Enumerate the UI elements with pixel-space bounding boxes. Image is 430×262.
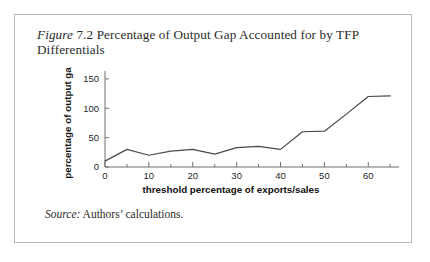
x-tick-label: 50 [319,170,330,181]
x-tick-label: 30 [231,170,242,181]
source-text: Authors’ calculations. [83,208,184,220]
chart-plot-area: 0102030405060050100150 threshold percent… [59,67,404,197]
y-tick-label: 150 [83,73,99,84]
x-tick-label: 20 [187,170,198,181]
source-label: Source: [45,208,80,220]
x-tick-label: 60 [363,170,374,181]
y-tick-label: 0 [94,161,99,172]
chart-ticks [105,79,390,167]
x-tick-label: 0 [102,170,107,181]
figure-label: Figure [37,27,73,42]
figure-frame: Figure 7.2 Percentage of Output Gap Acco… [14,14,412,243]
chart-axes [105,71,399,167]
figure-title: Figure 7.2 Percentage of Output Gap Acco… [37,27,387,57]
y-axis-title: percentage of output gap [62,67,73,179]
source-note: Source: Authors’ calculations. [45,208,183,220]
data-series-line [105,96,390,161]
y-tick-label: 50 [88,132,99,143]
x-tick-label: 10 [144,170,155,181]
figure-number: 7.2 [76,27,93,42]
x-tick-label: 40 [275,170,286,181]
line-chart-svg: 0102030405060050100150 threshold percent… [59,67,404,197]
x-axis-title: threshold percentage of exports/sales [143,184,320,195]
y-tick-label: 100 [83,103,99,114]
